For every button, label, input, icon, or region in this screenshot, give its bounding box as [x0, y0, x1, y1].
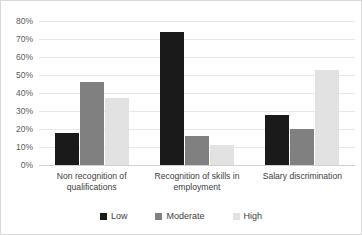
axis-baseline: [39, 165, 355, 166]
legend-label: High: [244, 211, 263, 221]
bar-group: [250, 1, 355, 165]
bar-low: [160, 32, 184, 165]
bar-low: [265, 115, 289, 165]
bar-chart: 80%70%60%50%40%30%20%10%0% Non recogniti…: [0, 0, 362, 235]
category-label: Salary discrimination: [250, 171, 355, 203]
bar-moderate: [290, 129, 314, 165]
legend-item[interactable]: Moderate: [155, 211, 204, 221]
bar-moderate: [80, 82, 104, 165]
bar-moderate: [185, 136, 209, 165]
y-axis-tick-label: 0%: [1, 161, 33, 170]
bar-low: [55, 133, 79, 165]
bar-high: [315, 70, 339, 165]
y-axis-tick-label: 70%: [1, 35, 33, 44]
y-axis-tick-label: 60%: [1, 53, 33, 62]
category-label: Non recognition of qualifications: [39, 171, 144, 203]
bar-groups: [39, 1, 355, 165]
y-axis: 80%70%60%50%40%30%20%10%0%: [1, 1, 37, 181]
chart-legend: LowModerateHigh: [1, 207, 361, 225]
legend-label: Moderate: [166, 211, 204, 221]
legend-swatch-icon: [100, 213, 107, 220]
y-axis-tick-label: 40%: [1, 89, 33, 98]
legend-swatch-icon: [155, 213, 162, 220]
y-axis-tick-label: 20%: [1, 125, 33, 134]
category-axis: Non recognition of qualificationsRecogni…: [39, 171, 355, 203]
legend-item[interactable]: High: [233, 211, 263, 221]
category-label: Recognition of skills in employment: [144, 171, 249, 203]
y-axis-tick-label: 80%: [1, 17, 33, 26]
legend-swatch-icon: [233, 213, 240, 220]
bar-high: [105, 98, 129, 165]
bar-high: [210, 145, 234, 165]
plot-area: [39, 1, 355, 181]
bar-group: [144, 1, 249, 165]
y-axis-tick-label: 30%: [1, 107, 33, 116]
legend-item[interactable]: Low: [100, 211, 128, 221]
y-axis-tick-label: 50%: [1, 71, 33, 80]
y-axis-tick-label: 10%: [1, 143, 33, 152]
legend-label: Low: [111, 211, 128, 221]
bar-group: [39, 1, 144, 165]
